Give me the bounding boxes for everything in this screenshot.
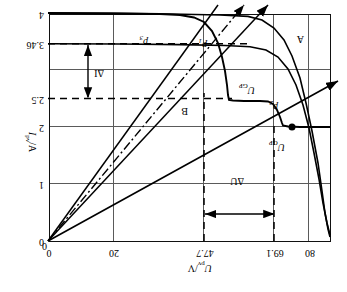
y-tick-label-1: 1 xyxy=(39,180,44,190)
rotated-figure-container: Upv/V 0 20 47.7 69.1 80 Ipv/A 0 1 2 2.5 … xyxy=(0,0,347,292)
x-tick-label-20: 20 xyxy=(109,248,119,258)
label-ugp-lower: UGP xyxy=(239,82,255,96)
y-tick-label-2-5: 2.5 xyxy=(32,95,45,105)
label-p3: p3 xyxy=(140,34,149,48)
label-delta-i: ΔI xyxy=(94,68,104,79)
x-tick-label-69-1: 69.1 xyxy=(266,248,284,258)
operating-point-dot xyxy=(289,124,296,131)
label-ugp-upper: UGP xyxy=(269,139,285,153)
label-p1: p1 xyxy=(199,37,208,51)
x-tick-label-0: 0 xyxy=(47,248,52,258)
label-p2: p2 xyxy=(270,99,279,113)
curve-p2 xyxy=(48,44,330,235)
y-axis-title: Ipv/A xyxy=(24,132,38,152)
label-point-b: B xyxy=(181,106,188,117)
load-line-2 xyxy=(48,5,268,241)
chart-page: Upv/V 0 20 47.7 69.1 80 Ipv/A 0 1 2 2.5 … xyxy=(0,0,347,292)
label-point-a: A xyxy=(297,34,304,45)
load-line-1 xyxy=(48,81,338,241)
load-line-3 xyxy=(48,5,218,241)
x-tick-label-80: 80 xyxy=(305,248,315,258)
label-delta-u: ΔU xyxy=(230,176,244,187)
y-tick-label-3-46: 3.46 xyxy=(27,40,45,50)
origin-zero-x: 0 xyxy=(42,241,47,252)
x-tick-label-47-7: 47.7 xyxy=(196,248,214,258)
plot-area: UGP UGP p2 p1 p3 ΔU ΔI A B xyxy=(49,14,331,242)
y-tick-label-2: 2 xyxy=(39,123,44,133)
y-tick-label-4: 4 xyxy=(39,10,44,20)
x-axis-title: Upv/V xyxy=(188,260,212,274)
